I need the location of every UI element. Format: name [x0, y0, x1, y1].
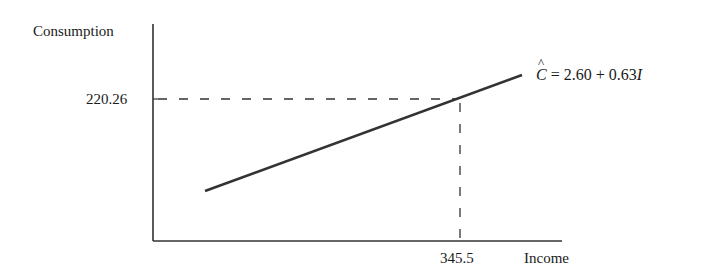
- regression-line: [205, 75, 522, 191]
- y-tick-label: 220.26: [86, 92, 127, 107]
- chart-canvas: [0, 0, 708, 276]
- x-axis-label: Income: [524, 251, 569, 266]
- equation-variable: I: [637, 66, 642, 83]
- equation-rhs: = 2.60 + 0.63: [551, 66, 637, 83]
- c-hat-symbol: C: [536, 67, 547, 83]
- y-axis-label: Consumption: [33, 24, 114, 39]
- x-tick-label: 345.5: [440, 251, 474, 266]
- regression-equation: C = 2.60 + 0.63I: [536, 67, 642, 83]
